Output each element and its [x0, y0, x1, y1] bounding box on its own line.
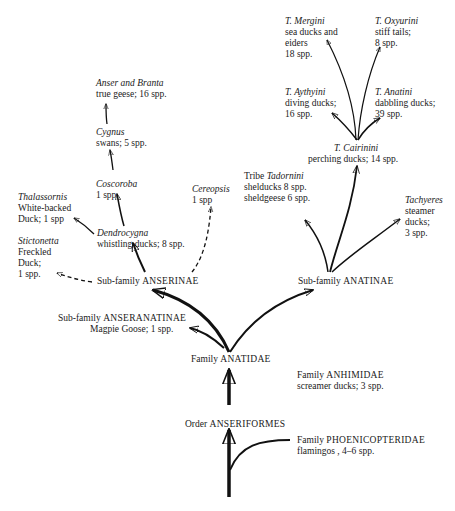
- genus-name: Anser and Branta: [96, 78, 167, 89]
- branch-anatini: [358, 118, 380, 140]
- taxon-desc: true geese; 16 spp.: [96, 89, 167, 100]
- genus-name: Dendrocygna: [97, 228, 185, 239]
- rank-label: Tribe: [244, 171, 264, 181]
- node-tachyeres: Tachyeres steamer ducks; 3 spp.: [405, 195, 443, 239]
- genus-name: Tachyeres: [405, 195, 443, 206]
- taxon-desc: 39 spp.: [375, 109, 435, 120]
- taxon-desc: Duck;: [18, 258, 59, 269]
- taxon-desc: 1 spp.: [96, 190, 137, 201]
- taxon-desc: sheldgeese 6 spp.: [244, 193, 310, 204]
- taxon-desc: steamer: [405, 206, 443, 217]
- genus-name: T. Oxyurini: [375, 16, 418, 27]
- node-coscoroba: Coscoroba 1 spp.: [96, 179, 137, 201]
- taxon-name: ANSERINAE: [142, 276, 199, 286]
- taxon-name: ANATINAE: [343, 276, 393, 286]
- genus-name: Cygnus: [96, 127, 147, 138]
- node-anhimidae: Family ANHIMIDAE screamer ducks; 3 spp.: [297, 370, 384, 392]
- node-anatini: T. Anatini dabbling ducks; 39 spp.: [375, 87, 435, 120]
- node-tadornini: Tribe Tadornini shelducks 8 spp. sheldge…: [244, 171, 310, 204]
- taxon-desc: dabbling ducks;: [375, 98, 435, 109]
- taxon-desc: White-backed: [18, 203, 71, 214]
- branch-tachyeres: [332, 219, 400, 272]
- node-thalassornis: Thalassornis White-backed Duck; 1 spp: [18, 192, 71, 225]
- taxon-desc: 1 spp: [192, 195, 230, 206]
- genus-name: T. Cairinini: [308, 143, 398, 154]
- node-aythyini: T. Aythyini diving ducks; 16 spp.: [285, 87, 336, 120]
- rank-label: Sub-family: [58, 313, 101, 323]
- taxon-name: ANSERIFORMES: [210, 419, 286, 429]
- branch-cygnus: [110, 150, 113, 170]
- node-phoenicopteridae: Family PHOENICOPTERIDAE flamingos , 4–6 …: [297, 435, 425, 457]
- rank-label: Family: [191, 354, 218, 364]
- branch-anseranatinae: [190, 328, 224, 348]
- node-cygnus: Cygnus swans; 5 spp.: [96, 127, 147, 149]
- node-anser-branta: Anser and Branta true geese; 16 spp.: [96, 78, 167, 100]
- node-anserinae: Sub-family ANSERINAE: [97, 276, 199, 287]
- phylogeny-diagram: Order ANSERIFORMES Family PHOENICOPTERID…: [0, 0, 455, 511]
- node-order: Order ANSERIFORMES: [185, 419, 285, 430]
- genus-name: Stictonetta: [18, 236, 59, 247]
- taxon-desc: shelducks 8 spp.: [244, 182, 310, 193]
- node-cereopsis: Cereopsis 1 spp: [192, 184, 230, 206]
- node-oxyurini: T. Oxyurini stiff tails; 8 spp.: [375, 16, 418, 49]
- taxon-desc: whistling ducks; 8 spp.: [97, 239, 185, 250]
- taxon-desc: 18 spp.: [285, 49, 338, 60]
- taxon-desc: Freckled: [18, 247, 59, 258]
- taxon-desc: sea ducks and: [285, 27, 338, 38]
- taxon-desc: 8 spp.: [375, 38, 418, 49]
- taxon-desc: 1 spp.: [18, 269, 59, 280]
- genus-name: Cereopsis: [192, 184, 230, 195]
- branch-thalassornis: [74, 218, 94, 234]
- rank-label: Sub-family: [97, 276, 140, 286]
- genus-name: T. Anatini: [375, 87, 435, 98]
- taxon-name: ANATIDAE: [220, 354, 270, 364]
- genus-name: T. Mergini: [285, 16, 338, 27]
- taxon-desc: swans; 5 spp.: [96, 138, 147, 149]
- branch-stictonetta: [57, 273, 92, 282]
- taxon-name: ANHIMIDAE: [326, 370, 384, 380]
- rank-label: Family: [297, 435, 324, 445]
- taxon-desc: Magpie Goose; 1 spp.: [58, 324, 186, 335]
- node-anatidae: Family ANATIDAE: [191, 354, 271, 365]
- node-dendrocygna: Dendrocygna whistling ducks; 8 spp.: [97, 228, 185, 250]
- taxon-name: PHOENICOPTERIDAE: [326, 435, 425, 445]
- taxon-desc: stiff tails;: [375, 27, 418, 38]
- taxon-desc: Duck; 1 spp: [18, 214, 71, 225]
- node-anseranatinae: Sub-family ANSERANATINAE Magpie Goose; 1…: [58, 313, 186, 335]
- taxon-desc: 3 spp.: [405, 228, 443, 239]
- branch-cereopsis: [192, 207, 211, 272]
- taxon-desc: perching ducks; 14 spp.: [308, 154, 398, 165]
- branch-tadornini: [305, 220, 328, 272]
- taxon-desc: 16 spp.: [285, 109, 336, 120]
- genus-name: Coscoroba: [96, 179, 137, 190]
- taxon-desc: diving ducks;: [285, 98, 336, 109]
- taxon-desc: eiders: [285, 38, 338, 49]
- node-anatinae: Sub-family ANATINAE: [298, 276, 394, 287]
- rank-label: Sub-family: [298, 276, 341, 286]
- taxon-name: ANSERANATINAE: [103, 313, 186, 323]
- branch-cairinini: [330, 166, 357, 272]
- branch-anatinae: [230, 290, 313, 352]
- taxon-desc: ducks;: [405, 217, 443, 228]
- rank-label: Order: [185, 419, 207, 429]
- genus-name: Thalassornis: [18, 192, 71, 203]
- taxon-desc: flamingos , 4–6 spp.: [297, 446, 425, 457]
- genus-name: Tadornini: [267, 171, 304, 181]
- rank-label: Family: [297, 370, 324, 380]
- branch-anser-branta: [106, 104, 107, 124]
- branch-phoenicopteridae: [230, 440, 290, 470]
- taxon-desc: screamer ducks; 3 spp.: [297, 381, 384, 392]
- node-cairinini: T. Cairinini perching ducks; 14 spp.: [308, 143, 398, 165]
- node-stictonetta: Stictonetta Freckled Duck; 1 spp.: [18, 236, 59, 280]
- node-mergini: T. Mergini sea ducks and eiders 18 spp.: [285, 16, 338, 60]
- genus-name: T. Aythyini: [285, 87, 336, 98]
